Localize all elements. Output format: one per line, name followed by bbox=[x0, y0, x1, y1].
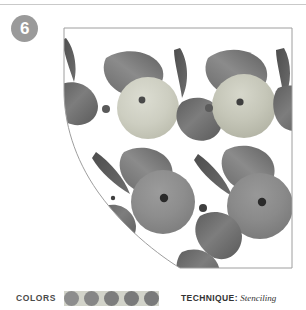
technique-label: TECHNIQUE: bbox=[181, 293, 238, 303]
legend-bar: COLORS TECHNIQUE: Stenciling bbox=[0, 286, 306, 310]
technique-group: TECHNIQUE: Stenciling bbox=[181, 293, 276, 303]
color-swatch-2[interactable] bbox=[84, 291, 99, 306]
pattern-number-badge: 6 bbox=[11, 15, 38, 42]
colors-label: COLORS bbox=[16, 293, 56, 303]
artwork-panel bbox=[62, 26, 294, 276]
fruit-seed-icon bbox=[258, 198, 266, 206]
color-swatch-5[interactable] bbox=[144, 291, 159, 306]
berry-icon bbox=[199, 204, 207, 212]
fruit-seed-icon bbox=[236, 98, 243, 105]
fruit-icon bbox=[212, 74, 276, 138]
header-divider bbox=[0, 4, 306, 5]
technique-value: Stenciling bbox=[240, 293, 276, 303]
stencil-artwork-svg bbox=[62, 26, 294, 276]
fruit-seed-icon bbox=[139, 97, 146, 104]
fruit-icon bbox=[117, 77, 179, 139]
color-swatch-list bbox=[64, 291, 159, 306]
motif-cluster-top-right bbox=[205, 48, 294, 138]
berry-icon bbox=[102, 105, 110, 113]
berry-icon bbox=[205, 104, 213, 112]
pattern-page: 6 bbox=[0, 0, 306, 310]
color-swatch-1[interactable] bbox=[64, 291, 79, 306]
color-swatch-4[interactable] bbox=[124, 291, 139, 306]
berry-icon bbox=[111, 196, 115, 200]
color-swatch-3[interactable] bbox=[104, 291, 119, 306]
fruit-seed-icon bbox=[160, 194, 168, 202]
